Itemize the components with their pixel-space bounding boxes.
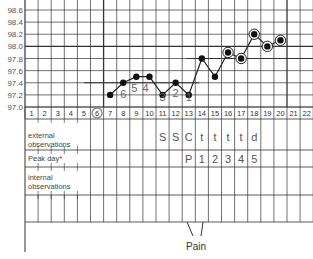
temp-point bbox=[120, 80, 126, 86]
temp-point bbox=[172, 80, 178, 86]
day-number: 8 bbox=[121, 109, 125, 118]
peak-day-value: 4 bbox=[238, 153, 244, 165]
row-label-external: observations bbox=[28, 140, 71, 149]
y-tick-label: 97.6 bbox=[7, 67, 23, 76]
day-number: 21 bbox=[289, 109, 297, 118]
external-observation: d bbox=[251, 131, 257, 143]
peak-day-value: 1 bbox=[199, 153, 205, 165]
temp-point bbox=[251, 31, 257, 37]
day-number: 20 bbox=[276, 109, 284, 118]
low-temp-label: 3 bbox=[159, 91, 165, 103]
y-tick-label: 98.4 bbox=[7, 18, 23, 27]
day-number: 17 bbox=[237, 109, 245, 118]
temp-point bbox=[277, 37, 283, 43]
row-label-peak-day: Peak day* bbox=[28, 154, 62, 163]
day-number: 10 bbox=[145, 109, 153, 118]
day-number: 7 bbox=[108, 109, 112, 118]
day-number: 3 bbox=[56, 109, 60, 118]
day-number: 18 bbox=[250, 109, 258, 118]
fertility-chart: 98.698.498.298.097.897.697.497.297.01234… bbox=[0, 0, 313, 259]
peak-day-value: P bbox=[185, 153, 192, 165]
low-temp-label: 5 bbox=[131, 82, 137, 94]
y-tick-label: 98.0 bbox=[7, 42, 23, 51]
peak-day-value: 3 bbox=[225, 153, 231, 165]
low-temp-label: 4 bbox=[142, 82, 148, 94]
temp-point bbox=[133, 73, 139, 79]
day-number: 14 bbox=[198, 109, 206, 118]
day-number: 1 bbox=[29, 109, 33, 118]
y-tick-label: 97.0 bbox=[7, 103, 23, 112]
day-number: 4 bbox=[69, 109, 73, 118]
row-label-external: external bbox=[28, 131, 55, 140]
day-number: 13 bbox=[185, 109, 193, 118]
low-temp-label: 1 bbox=[186, 91, 192, 103]
temp-point bbox=[146, 73, 152, 79]
external-observation: S bbox=[172, 131, 179, 143]
y-tick-label: 97.8 bbox=[7, 55, 23, 64]
day-number: 16 bbox=[224, 109, 232, 118]
peak-day-value: 5 bbox=[251, 153, 257, 165]
day-number: 22 bbox=[302, 109, 310, 118]
peak-day-value: 2 bbox=[212, 153, 218, 165]
row-label-internal: observations bbox=[28, 182, 71, 191]
day-number: 5 bbox=[82, 109, 86, 118]
low-temp-label: 2 bbox=[173, 87, 179, 99]
day-number: 15 bbox=[211, 109, 219, 118]
external-observation: t bbox=[240, 131, 243, 143]
day-number: 9 bbox=[134, 109, 138, 118]
day-number: 2 bbox=[43, 109, 47, 118]
external-observation: C bbox=[185, 131, 193, 143]
y-tick-label: 98.2 bbox=[7, 30, 23, 39]
external-observation: t bbox=[200, 131, 203, 143]
temp-point bbox=[238, 55, 244, 61]
pain-annotation: Pain bbox=[186, 241, 206, 252]
temp-point bbox=[264, 43, 270, 49]
temp-point bbox=[212, 73, 218, 79]
row-label-internal: internal bbox=[28, 173, 53, 182]
y-tick-label: 97.4 bbox=[7, 79, 23, 88]
day-number: 11 bbox=[159, 109, 167, 118]
temp-point bbox=[225, 49, 231, 55]
y-tick-label: 98.6 bbox=[7, 6, 23, 15]
external-observation: S bbox=[159, 131, 166, 143]
external-observation: t bbox=[213, 131, 216, 143]
temp-point bbox=[107, 92, 113, 98]
external-observation: t bbox=[227, 131, 230, 143]
day-number: 19 bbox=[263, 109, 271, 118]
y-tick-label: 97.2 bbox=[7, 91, 23, 100]
day-number: 6 bbox=[95, 109, 99, 118]
low-temp-label: 6 bbox=[120, 88, 126, 100]
day-number: 12 bbox=[171, 109, 179, 118]
temp-point bbox=[199, 55, 205, 61]
